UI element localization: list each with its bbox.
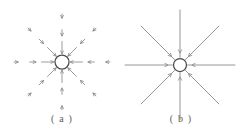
central-charge-circle (55, 55, 69, 69)
panel-b-diagram (125, 10, 235, 120)
panel-a-diagram (14, 14, 110, 110)
field-line (185, 26, 218, 59)
panel-a-caption: ( a ) (30, 113, 94, 124)
field-line (185, 70, 218, 103)
field-line-segment (68, 48, 77, 57)
field-line (141, 26, 174, 59)
field-line-segment (48, 48, 57, 57)
field-line-segment (48, 68, 57, 77)
central-charge-circle (174, 59, 187, 72)
panel-b-caption: ( b ) (149, 113, 213, 124)
figure-container: ( a ) ( b ) (0, 0, 243, 136)
field-line-segment (68, 68, 77, 77)
field-line (141, 70, 174, 103)
